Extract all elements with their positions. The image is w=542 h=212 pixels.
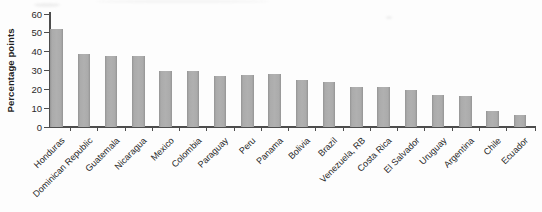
x-tick-4 — [179, 127, 180, 131]
x-label-chile: Chile — [481, 135, 503, 157]
bar-bolivia — [296, 80, 309, 127]
x-tick-2 — [125, 127, 126, 131]
x-tick-5 — [206, 127, 207, 131]
x-label-brazil: Brazil — [317, 135, 340, 158]
bar-uruguay — [432, 95, 445, 127]
y-tick-label-60: 60 — [24, 10, 42, 19]
bar-ecuador — [514, 115, 527, 127]
x-tick-9 — [315, 127, 316, 131]
scan-artifact — [95, 0, 270, 3]
y-tick-50 — [44, 32, 49, 33]
bar-mexico — [159, 71, 172, 128]
bar-dominican-republic — [78, 54, 91, 127]
x-tick-1 — [97, 127, 98, 131]
bar-venezuela-rb — [350, 87, 363, 127]
y-tick-60 — [44, 14, 49, 15]
bar-brazil — [323, 82, 336, 127]
x-label-ecuador: Ecuador — [500, 135, 531, 166]
y-tick-30 — [44, 70, 49, 71]
x-tick-6 — [234, 127, 235, 131]
x-label-peru: Peru — [237, 135, 258, 156]
x-tick-7 — [261, 127, 262, 131]
x-tick-11 — [370, 127, 371, 131]
y-axis-title-text: Percentage points — [5, 28, 16, 112]
y-tick-label-10: 10 — [24, 104, 42, 113]
bar-guatemala — [105, 56, 118, 127]
bar-paraguay — [214, 76, 227, 127]
x-label-bolivia: Bolivia — [286, 135, 312, 161]
y-tick-20 — [44, 89, 49, 90]
x-tick-15 — [479, 127, 480, 131]
bar-panama — [268, 74, 281, 127]
y-axis-title: Percentage points — [5, 31, 16, 113]
y-tick-40 — [44, 51, 49, 52]
y-tick-label-30: 30 — [24, 66, 42, 75]
x-tick-end — [535, 127, 536, 131]
x-tick-14 — [452, 127, 453, 131]
y-tick-0 — [44, 127, 49, 128]
y-tick-label-50: 50 — [24, 28, 42, 37]
x-tick-12 — [397, 127, 398, 131]
x-tick-8 — [288, 127, 289, 131]
x-tick-3 — [152, 127, 153, 131]
y-tick-label-0: 0 — [24, 123, 42, 132]
scan-artifact — [34, 3, 60, 7]
bar-el-salvador — [405, 90, 418, 127]
bar-costa-rica — [377, 87, 390, 127]
x-tick-10 — [343, 127, 344, 131]
x-tick-13 — [424, 127, 425, 131]
x-label-panama: Panama — [254, 135, 285, 166]
x-tick-16 — [506, 127, 507, 131]
bar-argentina — [459, 96, 472, 127]
y-tick-label-20: 20 — [24, 85, 42, 94]
bar-chart-figure: Percentage points 0102030405060HondurasD… — [0, 0, 542, 212]
y-tick-label-40: 40 — [24, 47, 42, 56]
bar-chile — [486, 111, 499, 127]
bar-nicaragua — [132, 56, 145, 127]
x-tick-0 — [70, 127, 71, 131]
bar-honduras — [50, 29, 63, 127]
scan-artifact — [386, 16, 392, 19]
bar-colombia — [187, 71, 200, 128]
bar-peru — [241, 75, 254, 127]
y-tick-10 — [44, 108, 49, 109]
